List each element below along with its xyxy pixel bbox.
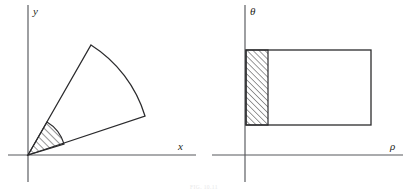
rho-axis-label: ρ xyxy=(389,140,395,152)
x-axis-label: x xyxy=(177,140,183,152)
left-panel-group: y x xyxy=(8,5,196,182)
hatched-theta-band xyxy=(246,50,268,125)
y-axis-label: y xyxy=(32,5,38,17)
figure-container: y x θ ρ FIG. 10.11 xyxy=(0,0,408,190)
right-panel-group: θ ρ xyxy=(212,5,403,182)
theta-axis-label: θ xyxy=(250,5,256,17)
figure-caption: FIG. 10.11 xyxy=(0,184,408,190)
figure-canvas: y x θ ρ xyxy=(0,0,408,190)
